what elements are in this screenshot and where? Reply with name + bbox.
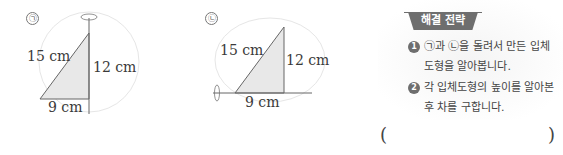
strategy-step-1: 1㉠과 ㉡을 돌려서 만든 입체 도형을 알아봅니다. [408,37,550,77]
figure-b-base: 9 cm [245,94,279,110]
figure-a: ㉠ 15 cm 12 cm 9 cm [0,0,190,155]
figure-b-height: 12 cm [286,52,329,68]
figure-b-triangle-diagram [180,0,360,155]
answer-blank[interactable] [400,124,540,144]
step-2-line1: 각 입체도형의 높이를 알아본 [424,81,555,94]
figure-b-hypotenuse: 15 cm [220,42,263,58]
answer-close-paren: ) [548,124,555,145]
answer-open-paren: ( [380,124,387,145]
solution-strategy-box: 해결 전략 1㉠과 ㉡을 돌려서 만든 입체 도형을 알아봅니다. 2각 입체도… [378,0,563,120]
figure-a-triangle-diagram [0,0,190,155]
figure-a-hypotenuse: 15 cm [27,48,70,64]
step-1-line2: 도형을 알아봅니다. [408,57,550,77]
strategy-step-2: 2각 입체도형의 높이를 알아본 후 차를 구합니다. [408,78,555,118]
step-number-1-icon: 1 [408,41,420,53]
strategy-title: 해결 전략 [408,12,478,30]
figure-a-base: 9 cm [48,99,82,115]
step-2-line2: 후 차를 구합니다. [408,98,555,118]
figure-a-height: 12 cm [93,59,136,75]
step-1-line1: ㉠과 ㉡을 돌려서 만든 입체 [424,40,550,53]
figure-b: ㉡ 15 cm 12 cm 9 cm [180,0,360,155]
step-number-2-icon: 2 [408,82,420,94]
